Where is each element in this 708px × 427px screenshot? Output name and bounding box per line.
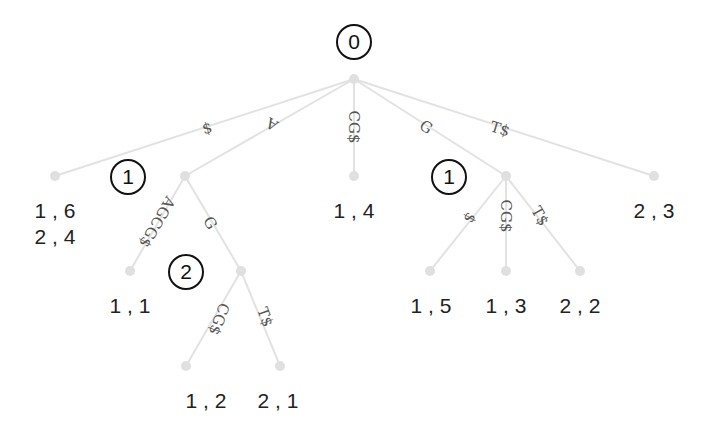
suffix-tree-diagram: $ACG$GT$AGCG$GCG$T$$CG$T$ 1 , 62 , 41 , … (0, 0, 708, 427)
depth-marker: 2 (169, 255, 203, 289)
edge-label: T$ (488, 118, 512, 141)
edge-label: CG$ (205, 300, 233, 337)
leaf-position-label: 2 , 3 (634, 199, 675, 222)
edge-label: CG$ (345, 110, 363, 143)
edge-label: CG$ (497, 199, 515, 232)
leaf-position-label: 1 , 1 (110, 294, 151, 317)
depth-value: 2 (180, 260, 192, 283)
depth-marker: 1 (432, 160, 466, 194)
tree-node (349, 171, 359, 181)
tree-node (180, 171, 190, 181)
tree-node (349, 74, 359, 84)
leaf-position-label: 2 , 4 (35, 225, 76, 248)
leaf-position-label: 1 , 6 (35, 199, 76, 222)
depth-value: 0 (348, 30, 360, 53)
tree-node (236, 266, 246, 276)
tree-node (575, 266, 585, 276)
tree-node (181, 361, 191, 371)
tree-node (649, 171, 659, 181)
leaf-position-label: 1 , 2 (186, 389, 227, 412)
edge-label: $ (200, 118, 214, 138)
tree-node (50, 171, 60, 181)
leaf-position-label: 1 , 5 (411, 294, 452, 317)
edge-label: A (263, 113, 282, 135)
leaf-position-label: 2 , 1 (258, 389, 299, 412)
depth-value: 1 (122, 165, 134, 188)
tree-node (275, 361, 285, 371)
tree-node (425, 266, 435, 276)
leaf-position-label: 2 , 2 (560, 294, 601, 317)
depth-marker: 1 (111, 160, 145, 194)
tree-node (501, 266, 511, 276)
leaf-position-label: 1 , 3 (486, 294, 527, 317)
edge-label: AGCG$ (135, 192, 179, 250)
depth-marker: 0 (337, 25, 371, 59)
depth-value: 1 (443, 165, 455, 188)
leaf-position-label: 1 , 4 (334, 199, 375, 222)
tree-edge (430, 176, 506, 271)
depth-markers-layer: 0112 (111, 25, 466, 289)
leaf-labels-layer: 1 , 62 , 41 , 42 , 31 , 11 , 22 , 11 , 5… (35, 199, 675, 412)
tree-node (125, 266, 135, 276)
tree-node (501, 171, 511, 181)
